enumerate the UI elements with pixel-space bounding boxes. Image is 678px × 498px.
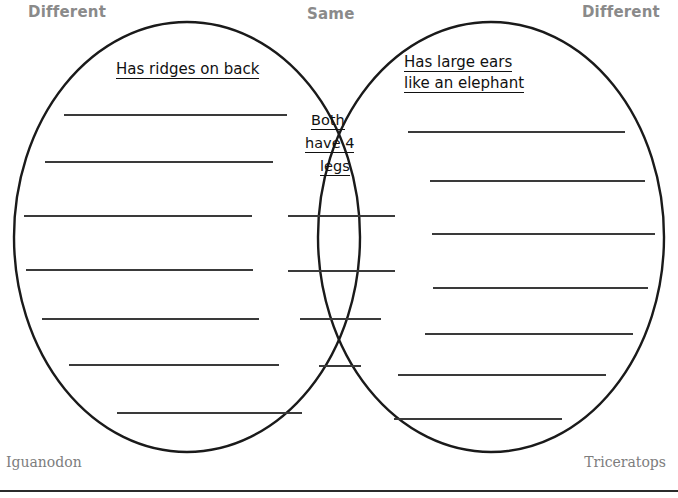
- header-left-different: Different: [28, 3, 106, 21]
- overlap-entry-line-2[interactable]: have 4: [305, 136, 354, 153]
- footer-label-right: Triceratops: [584, 454, 666, 470]
- right-entry-line-2[interactable]: like an elephant: [404, 76, 524, 93]
- overlap-entry-line-3[interactable]: legs: [320, 159, 350, 176]
- bottom-divider: [0, 490, 678, 492]
- left-blank-lines: [24, 115, 302, 413]
- footer-label-left: Iguanodon: [6, 454, 82, 470]
- overlap-entry-line-1[interactable]: Both: [311, 113, 345, 130]
- worksheet-page: Different Same Different Has ridges on b…: [0, 0, 678, 498]
- header-middle-same: Same: [307, 5, 355, 23]
- venn-diagram: [0, 0, 678, 498]
- right-entry-line-1[interactable]: Has large ears: [404, 55, 512, 72]
- header-right-different: Different: [582, 3, 660, 21]
- right-blank-lines: [394, 132, 655, 419]
- left-circle: [14, 22, 360, 452]
- left-entry-1[interactable]: Has ridges on back: [116, 62, 259, 79]
